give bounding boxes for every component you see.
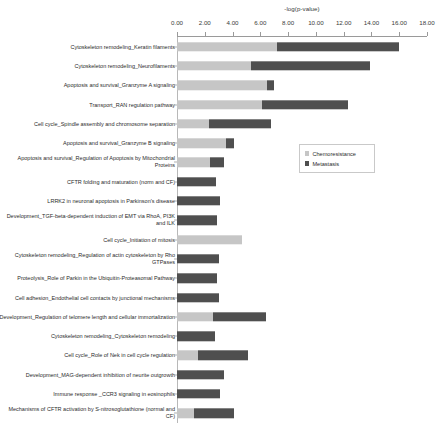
- bar-segment-chemoresistance: [177, 61, 251, 70]
- stacked-bar: [177, 81, 274, 90]
- chart-legend: Chemoresistance Metastasis: [299, 144, 375, 173]
- stacked-bar: [177, 158, 224, 167]
- chart-bar-row: Cell adhesion_Endothelial cell contacts …: [0, 288, 443, 307]
- category-label: Cell cycle_Role of Nek in cell cycle reg…: [0, 352, 175, 359]
- bar-segment-metastasis: [262, 100, 348, 109]
- chart-bar-row: Transport_RAN regulation pathway: [0, 95, 443, 114]
- category-label: Cell adhesion_Endothelial cell contacts …: [0, 294, 175, 301]
- x-tick-label: 2.00: [199, 19, 211, 26]
- x-tick-label: 12.00: [336, 19, 351, 26]
- chart-bar-row: Cytoskeleton remodeling_Keratin filament…: [0, 37, 443, 56]
- bar-segment-chemoresistance: [177, 351, 198, 360]
- bar-segment-metastasis: [251, 61, 370, 70]
- bar-segment-metastasis: [177, 177, 216, 186]
- category-label: Immune response _CCR3 signaling in eosin…: [0, 391, 175, 398]
- category-label: Mechanisms of CFTR activation by S-nitro…: [0, 407, 175, 420]
- stacked-bar: [177, 389, 220, 398]
- stacked-bar: [177, 409, 234, 418]
- x-tick-mark: [205, 32, 206, 36]
- x-tick-mark: [344, 32, 345, 36]
- category-label: Cytoskeleton remodeling_Keratin filament…: [0, 43, 175, 50]
- chart-bar-row: Cell cycle_Role of Nek in cell cycle reg…: [0, 346, 443, 365]
- stacked-bar: [177, 235, 242, 244]
- category-label: Cell cycle_Initiation of mitosis: [0, 236, 175, 243]
- category-label: Transport_RAN regulation pathway: [0, 101, 175, 108]
- stacked-bar: [177, 61, 370, 70]
- stacked-bar: [177, 370, 224, 379]
- bar-segment-metastasis: [210, 158, 224, 167]
- category-label: Cytoskeleton remodeling_Regulation of ac…: [0, 252, 175, 265]
- category-label: CFTR folding and maturation (norm and CF…: [0, 178, 175, 185]
- bar-segment-metastasis: [177, 196, 220, 205]
- stacked-bar: [177, 274, 217, 283]
- chart-bar-row: Apoptosis and survival_Regulation of Apo…: [0, 153, 443, 172]
- bar-segment-chemoresistance: [177, 81, 267, 90]
- legend-item-chemoresistance: Chemoresistance: [305, 149, 374, 159]
- bar-segment-metastasis: [198, 351, 248, 360]
- category-label: Apoptosis and survival_Granzyme A signal…: [0, 82, 175, 89]
- chart-bar-row: Apoptosis and survival_Granzyme A signal…: [0, 76, 443, 95]
- x-tick-mark: [233, 32, 234, 36]
- category-label: Development_Regulation of telomere lengt…: [0, 314, 175, 321]
- stacked-bar: [177, 254, 219, 263]
- bar-segment-chemoresistance: [177, 235, 242, 244]
- stacked-bar: [177, 100, 348, 109]
- category-label: Apoptosis and survival_Granzyme B signal…: [0, 140, 175, 147]
- x-tick-label: 6.00: [254, 19, 266, 26]
- x-tick-mark: [288, 32, 289, 36]
- x-tick-label: 16.00: [391, 19, 406, 26]
- legend-label-chemoresistance: Chemoresistance: [312, 151, 356, 157]
- bar-segment-metastasis: [177, 254, 219, 263]
- chart-bar-row: Cytoskeleton remodeling_Neurofilaments: [0, 56, 443, 75]
- bar-segment-metastasis: [177, 216, 217, 225]
- category-label: Development_MAG-dependent inhibition of …: [0, 371, 175, 378]
- legend-swatch-icon-metastasis: [305, 161, 309, 165]
- bar-segment-chemoresistance: [177, 100, 262, 109]
- chart-bar-row: Cytoskeleton remodeling_Cytoskeleton rem…: [0, 327, 443, 346]
- legend-label-metastasis: Metastasis: [312, 161, 339, 167]
- category-label: Cytoskeleton remodeling_Neurofilaments: [0, 63, 175, 70]
- chart-bar-row: Development_MAG-dependent inhibition of …: [0, 365, 443, 384]
- category-label: Proteolysis_Role of Parkin in the Ubiqui…: [0, 275, 175, 282]
- category-label: Cytoskeleton remodeling_Cytoskeleton rem…: [0, 333, 175, 340]
- x-tick-label: 18.00: [419, 19, 434, 26]
- stacked-bar: [177, 293, 219, 302]
- chart-bar-row: Immune response _CCR3 signaling in eosin…: [0, 384, 443, 403]
- category-label: LRRK2 in neuronal apoptosis in Parkinson…: [0, 198, 175, 205]
- x-tick-mark: [399, 32, 400, 36]
- chart-bar-row: CFTR folding and maturation (norm and CF…: [0, 172, 443, 191]
- bar-segment-chemoresistance: [177, 158, 210, 167]
- stacked-bar: [177, 216, 217, 225]
- chart-bar-row: Cell cycle_Initiation of mitosis: [0, 230, 443, 249]
- stacked-bar: [177, 196, 220, 205]
- category-label: Cell cycle_Spindle assembly and chromoso…: [0, 121, 175, 128]
- x-axis-title: -log(p-value): [177, 5, 427, 12]
- stacked-bar: [177, 331, 215, 340]
- plot-area: Cytoskeleton remodeling_Keratin filament…: [0, 37, 443, 423]
- chart-bar-row: Cell cycle_Spindle assembly and chromoso…: [0, 114, 443, 133]
- chart-bar-row: Development_TGF-beta-dependent induction…: [0, 211, 443, 230]
- bar-segment-metastasis: [177, 370, 224, 379]
- bar-segment-metastasis: [177, 274, 217, 283]
- x-tick-mark: [371, 32, 372, 36]
- chart-bar-row: Apoptosis and survival_Granzyme B signal…: [0, 134, 443, 153]
- x-tick-label: 8.00: [282, 19, 294, 26]
- chart-bar-row: Mechanisms of CFTR activation by S-nitro…: [0, 404, 443, 423]
- x-tick-mark: [427, 32, 428, 36]
- bar-segment-metastasis: [267, 81, 274, 90]
- chart-bar-row: Cytoskeleton remodeling_Regulation of ac…: [0, 249, 443, 268]
- x-axis-tick-labels: 0.002.004.006.008.0010.0012.0014.0016.00…: [0, 19, 443, 29]
- stacked-bar: [177, 42, 399, 51]
- bar-segment-metastasis: [177, 293, 219, 302]
- stacked-bar: [177, 177, 216, 186]
- bar-segment-metastasis: [194, 409, 234, 418]
- bar-segment-chemoresistance: [177, 42, 277, 51]
- legend-swatch-icon-chemoresistance: [305, 151, 309, 155]
- x-tick-label: 10.00: [308, 19, 323, 26]
- stacked-bar: [177, 119, 271, 128]
- category-label: Apoptosis and survival_Regulation of Apo…: [0, 156, 175, 169]
- chart-bar-row: Proteolysis_Role of Parkin in the Ubiqui…: [0, 269, 443, 288]
- bar-segment-metastasis: [277, 42, 399, 51]
- bar-segment-chemoresistance: [177, 409, 194, 418]
- chart-bar-row: LRRK2 in neuronal apoptosis in Parkinson…: [0, 191, 443, 210]
